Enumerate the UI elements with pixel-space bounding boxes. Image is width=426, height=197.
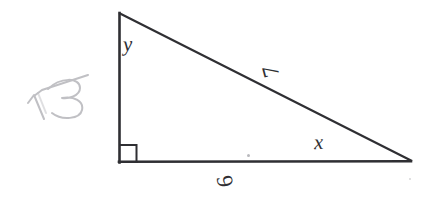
paper-speck-corner (409, 178, 411, 180)
triangle-outline (119, 13, 411, 163)
hypotenuse-line (120, 14, 411, 161)
diagram-canvas: y 7 6 x (0, 0, 426, 197)
digit-three (48, 80, 82, 118)
right-angle-marker (120, 145, 137, 162)
base-line (119, 161, 411, 162)
radical-tick (28, 95, 44, 119)
margin-note-sqrt-three-icon (26, 63, 96, 123)
angle-label-x: x (313, 132, 323, 153)
side-label-vertical-leg: y (122, 34, 133, 56)
paper-speck (247, 154, 250, 157)
